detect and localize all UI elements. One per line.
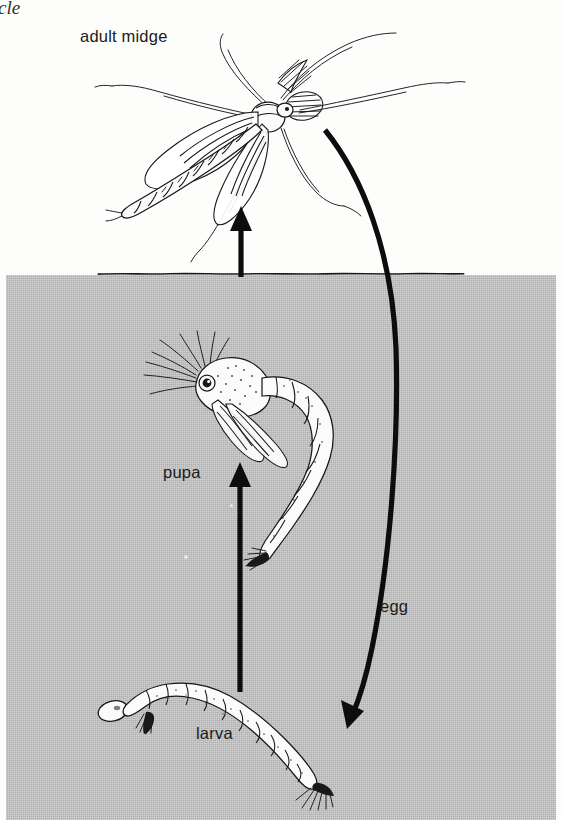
arrows-layer: [0, 0, 563, 820]
arrow-pupa-to-adult: [230, 206, 252, 277]
label-larva: larva: [196, 724, 233, 743]
arrow-adult-to-larva-egg: [325, 130, 397, 729]
label-adult-midge: adult midge: [80, 27, 168, 46]
figure-canvas: cle: [0, 0, 563, 820]
arrow-larva-to-pupa: [229, 462, 251, 692]
label-pupa: pupa: [163, 463, 201, 482]
label-egg: egg: [380, 597, 408, 616]
